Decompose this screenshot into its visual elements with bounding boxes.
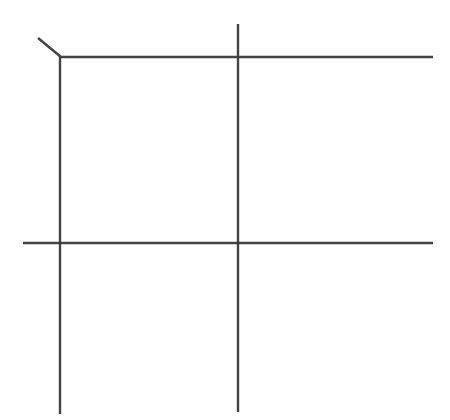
drawing-canvas <box>0 0 450 420</box>
canvas-background <box>0 0 450 420</box>
line-drawing-svg <box>0 0 450 420</box>
